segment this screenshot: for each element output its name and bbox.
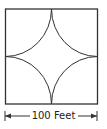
square-arcs-diagram	[0, 0, 107, 129]
arrowhead-left-icon	[5, 114, 11, 119]
arc-top-right	[52, 9, 98, 57]
outer-square	[6, 9, 98, 104]
arc-top-left	[6, 9, 52, 57]
arrowhead-right-icon	[91, 114, 97, 119]
arc-bottom-left	[6, 57, 52, 105]
arc-bottom-right	[52, 57, 98, 105]
